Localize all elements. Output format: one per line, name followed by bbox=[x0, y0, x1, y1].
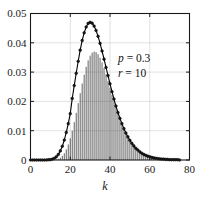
x-tick-label: 20 bbox=[65, 163, 77, 175]
x-axis-title: k bbox=[102, 179, 108, 193]
y-tick-label: 0.03 bbox=[7, 66, 27, 78]
x-tick-label: 60 bbox=[144, 163, 156, 175]
y-tick-label: 0.02 bbox=[7, 95, 26, 107]
chart-figure: 020406080 00.010.020.030.040.05 k p = 0.… bbox=[0, 0, 210, 205]
y-tick-label: 0.01 bbox=[7, 125, 26, 137]
x-tick-label: 0 bbox=[28, 163, 34, 175]
x-tick-label: 80 bbox=[184, 163, 196, 175]
p-annotation: p = 0.3 bbox=[117, 52, 151, 65]
r-annotation: r = 10 bbox=[118, 67, 146, 79]
y-tick-label: 0.05 bbox=[7, 7, 27, 19]
y-tick-label: 0.04 bbox=[7, 37, 27, 49]
negative-binomial-pmf-chart: 020406080 00.010.020.030.040.05 k p = 0.… bbox=[0, 0, 210, 205]
y-tick-label: 0 bbox=[21, 154, 27, 166]
x-tick-label: 40 bbox=[105, 163, 117, 175]
